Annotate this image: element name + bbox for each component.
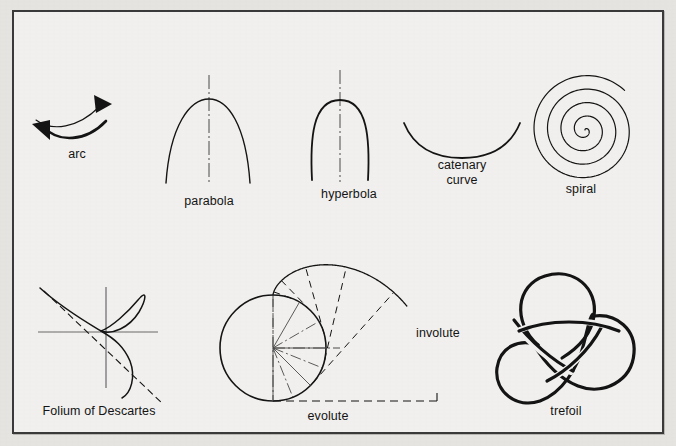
label-parabola: parabola <box>184 194 233 208</box>
figure-plate-border <box>12 10 664 434</box>
figure-root: arc parabola hyperbola catenary curve sp… <box>0 0 676 446</box>
label-catenary-line2: curve <box>446 173 477 187</box>
label-arc: arc <box>68 147 86 161</box>
label-trefoil: trefoil <box>550 404 581 418</box>
label-hyperbola: hyperbola <box>321 187 377 201</box>
label-involute: involute <box>416 326 460 340</box>
label-spiral: spiral <box>566 182 596 196</box>
label-folium: Folium of Descartes <box>42 404 155 418</box>
label-evolute: evolute <box>307 409 348 423</box>
label-catenary-line1: catenary <box>438 158 487 172</box>
